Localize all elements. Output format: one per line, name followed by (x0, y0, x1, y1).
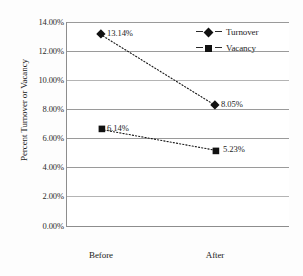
y-tick-label-8: 8.00% (8, 105, 64, 114)
y-tick-label-10: 10.00% (8, 76, 64, 85)
gridline-6 (66, 138, 289, 139)
y-tick-label-6: 6.00% (8, 134, 64, 143)
gridline-4 (66, 167, 289, 168)
legend-label-vacancy: Vacancy (222, 43, 256, 53)
point-label-vacancy-before: 6.14% (107, 124, 129, 133)
y-tick-label-0: 0.00% (8, 222, 64, 231)
x-tick-label-before: Before (61, 250, 141, 260)
point-label-turnover-after: 8.05% (221, 100, 243, 109)
gridline-8 (66, 109, 289, 110)
axis-baseline-0 (66, 226, 289, 227)
legend-item-turnover[interactable]: Turnover (196, 24, 288, 40)
point-label-vacancy-after: 5.23% (223, 145, 245, 154)
point-label-turnover-before: 13.14% (107, 29, 133, 38)
legend-item-vacancy[interactable]: Vacancy (196, 40, 288, 56)
y-tick-label-14: 14.00% (8, 18, 64, 27)
legend-label-turnover: Turnover (222, 27, 258, 37)
y-tick-label-4: 4.00% (8, 163, 64, 172)
chart-container: Percent Turnover or Vacancy 14.00% 12.00… (0, 0, 303, 276)
x-tick-label-after: After (175, 250, 255, 260)
legend: Turnover Vacancy (196, 24, 288, 56)
y-axis-spine (66, 22, 67, 227)
square-marker-icon (196, 42, 222, 54)
diamond-marker-icon (196, 26, 222, 38)
y-tick-label-2: 2.00% (8, 192, 64, 201)
gridline-14 (66, 22, 289, 23)
y-tick-label-12: 12.00% (8, 47, 64, 56)
gridline-2 (66, 196, 289, 197)
gridline-10 (66, 80, 289, 81)
